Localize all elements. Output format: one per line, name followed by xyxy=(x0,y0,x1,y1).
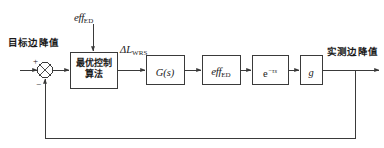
efficiency-block-label-base: eff xyxy=(211,65,221,77)
delay-block-label: e−τs xyxy=(252,64,288,80)
gain-block-label-base: g xyxy=(308,67,313,78)
plant-block-label: G(s) xyxy=(146,63,184,79)
delay-block-label-superscript: −τs xyxy=(268,67,277,74)
summing-plus-sign: + xyxy=(33,57,38,66)
error-signal-label-base: ΔL xyxy=(120,44,132,55)
feedforward-label-subscript: ED xyxy=(84,17,94,25)
controller-block-label-line1: 最优控制 xyxy=(70,58,117,69)
input-label: 目标边降值 xyxy=(8,38,59,48)
controller-block-label-line2: 算法 xyxy=(70,69,117,80)
efficiency-block-label: effED xyxy=(202,62,240,79)
error-signal-label: ΔLWRS xyxy=(120,40,148,57)
gain-block-label: g xyxy=(300,63,322,79)
feedforward-label: effED xyxy=(74,8,93,25)
diagram-canvas xyxy=(0,0,384,148)
control-block-diagram: 目标边降值 实测边降值 + − effED ΔLWRS 最优控制 算法 G(s)… xyxy=(0,0,384,148)
output-label: 实测边降值 xyxy=(327,47,378,57)
plant-block-label-paren: (s) xyxy=(163,67,174,78)
controller-block-label: 最优控制 算法 xyxy=(70,58,117,81)
error-signal-label-subscript: WRS xyxy=(132,49,147,57)
summing-minus-sign: − xyxy=(36,80,41,89)
efficiency-block-label-subscript: ED xyxy=(221,71,231,79)
feedforward-label-base: eff xyxy=(74,11,84,23)
